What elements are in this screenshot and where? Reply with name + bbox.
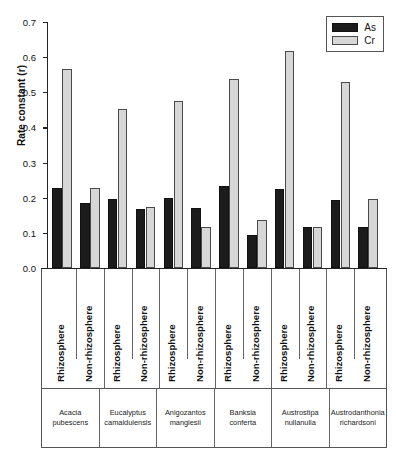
treatment-separator	[76, 269, 77, 359]
y-axis-tick: 0.5	[43, 92, 48, 93]
species-label-3: Banksiaconferta	[215, 389, 273, 447]
y-axis-tick-label: 0.7	[23, 17, 36, 28]
legend-swatch-cr	[332, 36, 358, 45]
y-axis-tick-label: 0.6	[23, 52, 36, 63]
treatment-label-9: Non-rhizosphere	[305, 306, 316, 382]
treatment-separator	[243, 269, 244, 359]
bar-cr-2	[118, 109, 128, 268]
y-axis-tick: 0.6	[43, 57, 48, 58]
bar-cr-8	[285, 51, 295, 268]
bar-as-7	[247, 235, 257, 268]
species-label-band: AcaciapubescensEucalyptuscamaldulensisAn…	[41, 388, 387, 448]
treatment-label-6: Rhizosphere	[222, 324, 233, 382]
species-label-line: conferta	[229, 418, 256, 428]
treatment-label-10: Rhizosphere	[333, 324, 344, 382]
chart-legend: As Cr	[326, 16, 384, 52]
treatment-label-5: Non-rhizosphere	[194, 306, 205, 382]
y-axis-tick-label: 0.1	[23, 227, 36, 238]
bar-cr-4	[174, 101, 184, 268]
bar-as-0	[52, 188, 62, 268]
group-separator	[159, 269, 160, 388]
bar-chart-figure: Rate constant (r) 0.70.60.50.40.30.20.10…	[0, 0, 396, 456]
species-label-line: camaldulensis	[104, 418, 151, 428]
treatment-separator	[187, 269, 188, 359]
bar-cr-11	[368, 199, 378, 268]
y-axis-tick: 0.4	[43, 127, 48, 128]
y-axis-tick-label: 0.2	[23, 192, 36, 203]
treatment-label-7: Non-rhizosphere	[250, 306, 261, 382]
bar-cr-3	[146, 207, 156, 269]
species-label-4: Austrostipanullanulla	[272, 389, 330, 447]
bar-as-1	[80, 203, 90, 268]
y-axis-tick: 0.7	[43, 22, 48, 23]
y-axis-tick: 0.2	[43, 198, 48, 199]
species-label-line: Acacia	[52, 408, 88, 418]
species-label-line: Anigozantos	[165, 408, 206, 418]
treatment-label-2: Rhizosphere	[111, 324, 122, 382]
treatment-label-1: Non-rhizosphere	[83, 306, 94, 382]
treatment-label-band: RhizosphereNon-rhizosphereRhizosphereNon…	[41, 269, 387, 388]
bar-as-9	[303, 227, 313, 268]
treatment-label-11: Non-rhizosphere	[361, 306, 372, 382]
legend-swatch-as	[332, 23, 358, 32]
treatment-label-3: Non-rhizosphere	[138, 306, 149, 382]
treatment-separator	[354, 269, 355, 359]
bar-as-11	[358, 227, 368, 268]
species-label-5: Austrodanthoniarichardsoni	[330, 389, 387, 447]
species-label-line: manglesii	[165, 418, 206, 428]
bar-as-4	[164, 198, 174, 268]
legend-item-cr: Cr	[332, 34, 376, 47]
species-label-2: Anigozantosmanglesii	[157, 389, 215, 447]
bar-as-8	[275, 189, 285, 268]
bar-as-2	[108, 199, 118, 268]
bar-cr-5	[201, 227, 211, 268]
species-label-line: Eucalyptus	[104, 408, 151, 418]
y-axis-tick-label: 0.5	[23, 87, 36, 98]
bar-cr-7	[257, 220, 267, 268]
bar-as-6	[219, 186, 229, 268]
group-separator	[326, 269, 327, 388]
bar-cr-10	[341, 82, 351, 268]
bar-cr-0	[62, 69, 72, 268]
species-label-line: richardsoni	[331, 418, 385, 428]
species-label-line: Austrodanthonia	[331, 408, 385, 418]
bar-as-10	[331, 200, 341, 268]
y-axis-tick: 0.3	[43, 163, 48, 164]
bar-as-5	[191, 208, 201, 268]
species-label-line: Banksia	[229, 408, 256, 418]
species-label-line: Austrostipa	[282, 408, 319, 418]
treatment-label-4: Rhizosphere	[166, 324, 177, 382]
group-separator	[271, 269, 272, 388]
bar-cr-1	[90, 188, 100, 268]
treatment-separator	[299, 269, 300, 359]
group-separator	[215, 269, 216, 388]
y-axis-tick-label: 0.4	[23, 122, 36, 133]
species-label-line: nullanulla	[282, 418, 319, 428]
legend-label-as: As	[364, 22, 376, 33]
bar-cr-6	[229, 79, 239, 268]
legend-label-cr: Cr	[364, 35, 375, 46]
y-axis-tick-label: 0.3	[23, 157, 36, 168]
species-label-0: Acaciapubescens	[42, 389, 100, 447]
y-axis-tick-label: 0.0	[23, 263, 36, 274]
y-axis-tick: 0.1	[43, 233, 48, 234]
species-label-line: pubescens	[52, 418, 88, 428]
treatment-separator	[132, 269, 133, 359]
bar-as-3	[136, 209, 146, 268]
group-separator	[104, 269, 105, 388]
bar-cr-9	[313, 227, 323, 268]
treatment-label-8: Rhizosphere	[278, 324, 289, 382]
legend-item-as: As	[332, 21, 376, 34]
species-label-1: Eucalyptuscamaldulensis	[100, 389, 158, 447]
plot-area: 0.70.60.50.40.30.20.10.0	[47, 22, 381, 268]
treatment-label-0: Rhizosphere	[55, 324, 66, 382]
